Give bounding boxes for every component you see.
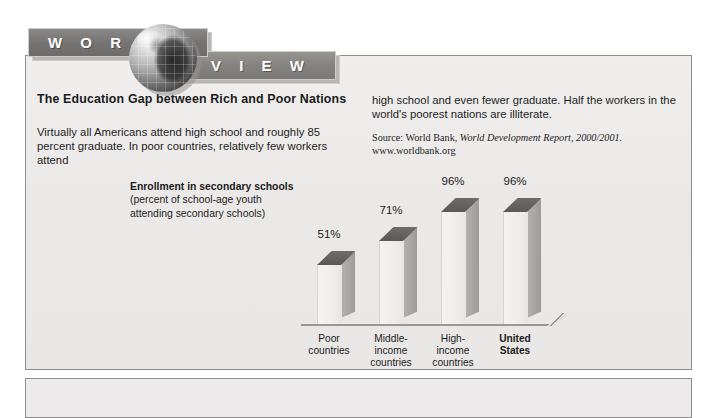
chart-baseline-ramp-edge	[547, 313, 567, 326]
chart-category-label-line: income	[437, 345, 470, 356]
chart-category-label: Poorcountries	[296, 333, 362, 357]
globe-icon	[129, 24, 201, 96]
globe-highlight	[137, 30, 163, 50]
chart-category-label-line: High-	[441, 333, 465, 344]
chart-category-label-line: countries	[370, 357, 411, 368]
chart-bar: 71%	[379, 240, 403, 324]
chart-category-label-line: income	[375, 345, 408, 356]
chart-bar-side-face	[527, 199, 541, 318]
chart-plot-area: 51%Poorcountries71%Middle-incomecountrie…	[295, 185, 575, 355]
chart-bar-front-face	[379, 240, 404, 324]
chart-bar: 51%	[317, 264, 341, 324]
chart-category-label-line: Middle-	[374, 333, 407, 344]
banner-view-label: V I E W	[211, 51, 311, 80]
chart-category-label-line: United	[499, 333, 531, 344]
chart-bar-value-label: 96%	[503, 175, 526, 187]
chart-category-label-line: countries	[308, 345, 349, 356]
chart-bar-value-label: 51%	[317, 228, 340, 240]
chart-bar-front-face	[441, 211, 466, 324]
chart-bar-side-face	[403, 228, 417, 318]
chart-category-label-line: Poor	[318, 333, 340, 344]
chart-category-label: UnitedStates	[482, 333, 548, 357]
chart-category-label: High-incomecountries	[420, 333, 486, 370]
chart-category-label: Middle-incomecountries	[358, 333, 424, 370]
chart-category-label-line: countries	[432, 357, 473, 368]
chart-subtitle-line2: attending secondary schools)	[130, 208, 265, 219]
chart-bar-value-label: 71%	[379, 204, 402, 216]
chart-bar: 96%	[441, 211, 465, 324]
chart-title-main: Enrollment in secondary schools	[130, 181, 293, 192]
chart-bar-side-face	[465, 199, 479, 318]
chart-bar-front-face	[503, 211, 528, 324]
world-view-banner: V I E W W O R L D	[16, 24, 346, 84]
chart-bar-front-face	[317, 264, 342, 324]
chart-subtitle-line1: (percent of school-age youth	[130, 194, 262, 205]
globe-sphere	[129, 24, 197, 92]
chart-baseline	[301, 324, 549, 326]
chart-bar: 96%	[503, 211, 527, 324]
chart-category-label-line: States	[500, 345, 531, 356]
chart-bar-value-label: 96%	[441, 175, 464, 187]
secondary-panel	[25, 378, 692, 418]
